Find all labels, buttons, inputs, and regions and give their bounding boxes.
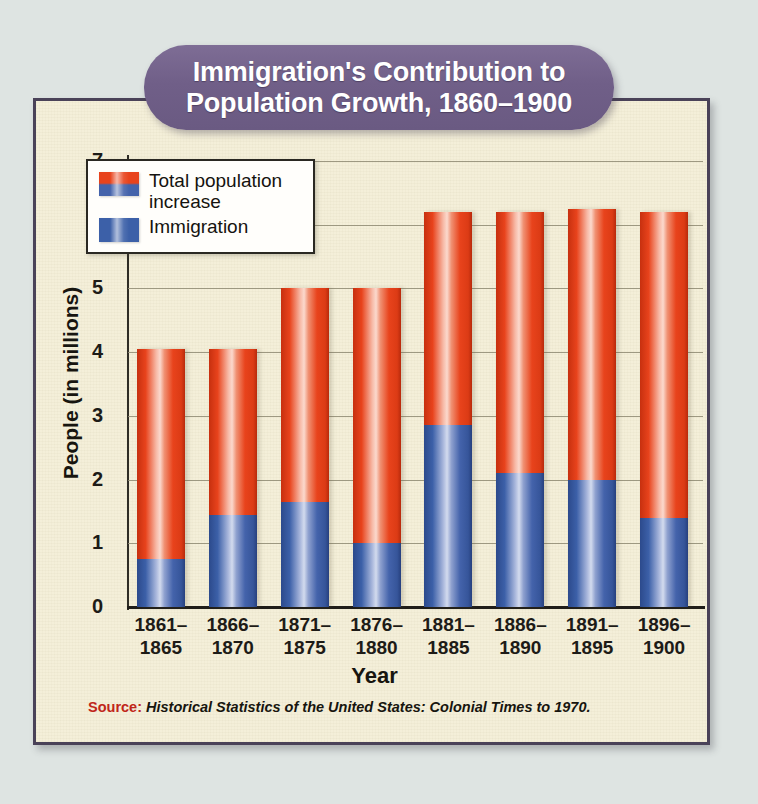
bar-1871–1875 xyxy=(281,288,329,607)
y-tick-label: 5 xyxy=(92,276,132,299)
y-axis-title: People (in millions) xyxy=(54,163,88,603)
bar-segment-immigration xyxy=(281,502,329,607)
bar-segment-immigration xyxy=(640,518,688,607)
y-tick-label: 1 xyxy=(92,531,132,554)
bar-1876–1880 xyxy=(353,288,401,607)
source-text: Historical Statistics of the United Stat… xyxy=(146,699,591,715)
bar-1861–1865 xyxy=(137,349,185,607)
bar-segment-immigration xyxy=(424,425,472,607)
legend-label-immigration: Immigration xyxy=(149,216,248,237)
x-tick-label: 1896–1900 xyxy=(621,613,707,659)
bar-1866–1870 xyxy=(209,349,257,607)
bar-segment-immigration xyxy=(568,480,616,607)
bar-segment-immigration xyxy=(353,543,401,607)
legend-item-total: Total population increase xyxy=(99,170,309,212)
y-tick-label: 2 xyxy=(92,468,132,491)
chart-title-line-1: Immigration's Contribution to xyxy=(193,57,566,88)
legend-item-immigration: Immigration xyxy=(99,216,248,242)
bar-1896–1900 xyxy=(640,212,688,607)
x-axis-title: Year xyxy=(36,663,713,689)
chart-title-line-2: Population Growth, 1860–1900 xyxy=(186,88,572,119)
bar-segment-immigration xyxy=(496,473,544,607)
bar-1886–1890 xyxy=(496,212,544,607)
chart-card: People (in millions) 01234567 1861–18651… xyxy=(33,98,710,745)
legend-label-total: Total population increase xyxy=(149,170,309,212)
red-blue-swatch-icon xyxy=(99,172,139,196)
source-line: Source:Historical Statistics of the Unit… xyxy=(88,699,591,715)
gridline xyxy=(128,288,703,289)
y-tick-label: 4 xyxy=(92,340,132,363)
blue-swatch-icon xyxy=(99,218,139,242)
bar-segment-immigration xyxy=(209,515,257,607)
chart-legend: Total population increase Immigration xyxy=(86,159,315,254)
y-tick-label: 3 xyxy=(92,404,132,427)
bar-segment-immigration xyxy=(137,559,185,607)
chart-title-banner: Immigration's Contribution to Population… xyxy=(144,45,614,130)
source-label: Source: xyxy=(88,699,142,715)
bar-1891–1895 xyxy=(568,209,616,607)
bar-1881–1885 xyxy=(424,212,472,607)
plot-wrapper: People (in millions) 01234567 1861–18651… xyxy=(36,101,713,748)
